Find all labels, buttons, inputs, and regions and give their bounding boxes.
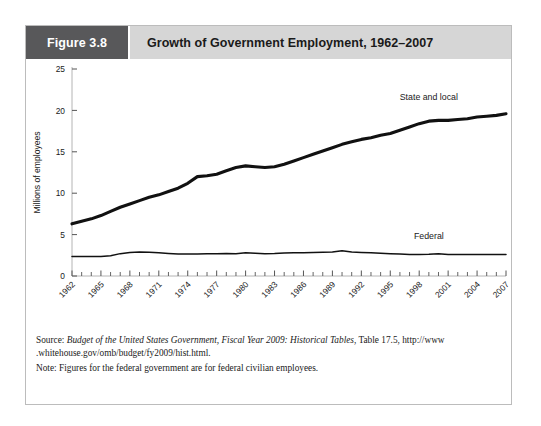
source-prefix: Source: bbox=[36, 335, 67, 345]
y-tick-label: 5 bbox=[60, 230, 65, 240]
x-tick-label: 1983 bbox=[259, 279, 279, 299]
figure-title: Growth of Government Employment, 1962–20… bbox=[147, 36, 433, 50]
x-tick-label: 1998 bbox=[404, 279, 424, 299]
x-tick-label: 1995 bbox=[375, 279, 395, 299]
source-title-italic: Budget of the United States Government, … bbox=[67, 335, 354, 345]
figure-notes: Source: Budget of the United States Gove… bbox=[36, 334, 502, 375]
chart-annotations: State and localFederal bbox=[400, 92, 458, 240]
x-tick-label: 1977 bbox=[201, 279, 221, 299]
y-tick-label: 0 bbox=[60, 271, 65, 281]
figure-container: Figure 3.8 Growth of Government Employme… bbox=[25, 25, 512, 405]
x-tick-label: 2001 bbox=[433, 279, 453, 299]
x-tick-label: 1989 bbox=[317, 279, 337, 299]
y-axis-title: Millions of employees bbox=[32, 131, 42, 213]
x-tick-label: 1962 bbox=[57, 279, 77, 299]
series-inline-label: State and local bbox=[400, 92, 458, 102]
series-line-state-and-local bbox=[72, 114, 506, 224]
y-tick-label: 20 bbox=[56, 106, 66, 116]
x-tick-label: 2004 bbox=[462, 279, 482, 299]
y-axis-title-group: Millions of employees bbox=[32, 131, 42, 213]
figure-header: Figure 3.8 Growth of Government Employme… bbox=[26, 26, 511, 59]
x-tick-label: 1968 bbox=[115, 279, 135, 299]
y-tick-label: 10 bbox=[56, 188, 66, 198]
source-rest: , Table 17.5, http://www bbox=[354, 335, 445, 345]
x-tick-label: 2007 bbox=[491, 279, 511, 299]
x-tick-label: 1974 bbox=[172, 279, 192, 299]
chart-region: 0510152025196219651968197119741977198019… bbox=[26, 59, 511, 331]
series-inline-label: Federal bbox=[414, 231, 444, 241]
figure-title-block: Growth of Government Employment, 1962–20… bbox=[130, 26, 511, 59]
y-tick-label: 25 bbox=[56, 64, 66, 74]
x-tick-label: 1965 bbox=[86, 279, 106, 299]
source-note-line2: .whitehouse.gov/omb/budget/fy2009/hist.h… bbox=[36, 347, 502, 360]
figure-note: Note: Figures for the federal government… bbox=[36, 362, 502, 375]
y-tick-label: 15 bbox=[56, 147, 66, 157]
figure-number-label: Figure 3.8 bbox=[47, 36, 107, 50]
x-tick-label: 1980 bbox=[230, 279, 250, 299]
x-tick-label: 1986 bbox=[288, 279, 308, 299]
x-tick-label: 1992 bbox=[346, 279, 366, 299]
figure-number-block: Figure 3.8 bbox=[26, 26, 130, 59]
employment-line-chart: 0510152025196219651968197119741977198019… bbox=[26, 59, 511, 331]
source-note: Source: Budget of the United States Gove… bbox=[36, 334, 502, 347]
x-tick-label: 1971 bbox=[143, 279, 163, 299]
series-line-federal bbox=[72, 251, 506, 257]
